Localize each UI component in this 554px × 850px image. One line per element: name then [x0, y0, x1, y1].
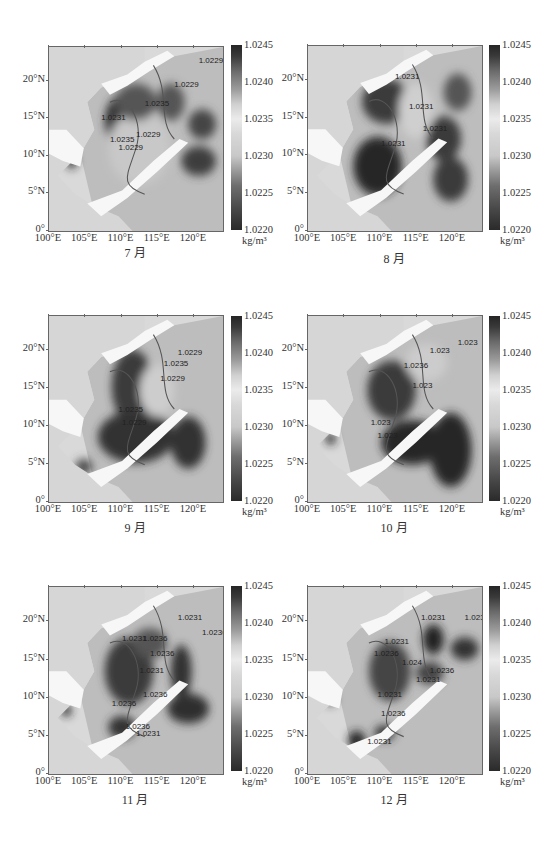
contour-label: 1.0229 — [174, 80, 198, 89]
y-tick-label: 5°N — [5, 186, 45, 197]
month-caption: 10 月 — [364, 522, 424, 534]
y-tick-label: 20°N — [264, 343, 304, 354]
colorbar-tick-label: 1.0245 — [244, 581, 273, 592]
y-tick-mark — [305, 620, 308, 621]
x-tick-mark — [416, 44, 417, 47]
contour-label: 1.0236 — [143, 690, 167, 699]
y-tick-mark — [305, 192, 308, 193]
colorbar-tick-label: 1.0230 — [502, 422, 531, 433]
y-tick-mark — [46, 387, 49, 388]
x-tick-label: 110°E — [360, 504, 400, 515]
contour-label: 1.0229 — [136, 130, 160, 139]
x-tick-mark — [157, 45, 158, 48]
y-tick-mark — [305, 349, 308, 350]
colorbar-tick-label: 1.0235 — [502, 655, 531, 666]
colorbar — [489, 45, 500, 230]
colorbar-unit: kg/m³ — [500, 236, 525, 247]
x-tick-mark — [84, 314, 85, 317]
x-tick-label: 100°E — [28, 504, 68, 515]
x-tick-mark — [307, 314, 308, 317]
y-tick-mark — [46, 773, 49, 774]
contour-label: 1.0231 — [139, 666, 163, 675]
y-tick-mark — [305, 230, 308, 231]
y-tick-label: 5°N — [264, 457, 304, 468]
x-tick-label: 120°E — [432, 233, 472, 244]
colorbar-unit: kg/m³ — [500, 507, 525, 518]
y-tick-mark — [46, 501, 49, 502]
x-tick-mark — [452, 314, 453, 317]
y-tick-label: 20°N — [5, 343, 45, 354]
y-tick-label: 5°N — [5, 729, 45, 740]
contour-label: 1.0235 — [164, 359, 188, 368]
x-tick-label: 115°E — [137, 504, 177, 515]
y-tick-label: 10°N — [5, 149, 45, 160]
y-tick-mark — [305, 387, 308, 388]
x-tick-label: 110°E — [101, 504, 141, 515]
x-tick-mark — [84, 585, 85, 588]
density-field — [308, 316, 482, 502]
y-tick-mark — [46, 155, 49, 156]
x-tick-mark — [157, 585, 158, 588]
y-tick-label: 10°N — [264, 691, 304, 702]
x-tick-mark — [452, 585, 453, 588]
colorbar-unit: kg/m³ — [242, 236, 267, 247]
x-tick-label: 105°E — [323, 233, 363, 244]
colorbar-tick-label: 1.0220 — [502, 496, 531, 507]
y-tick-mark — [46, 425, 49, 426]
map-plot-area: 1.02311.02361.02311.02361.02361.02311.02… — [48, 586, 224, 775]
x-tick-label: 115°E — [396, 776, 436, 787]
colorbar-unit: kg/m³ — [242, 777, 267, 788]
x-tick-mark — [307, 44, 308, 47]
x-tick-mark — [48, 45, 49, 48]
colorbar — [231, 316, 242, 501]
x-tick-label: 110°E — [360, 233, 400, 244]
y-tick-mark — [46, 463, 49, 464]
contour-label: 1.0231 — [136, 729, 160, 738]
y-tick-mark — [46, 192, 49, 193]
x-tick-mark — [121, 314, 122, 317]
y-tick-mark — [46, 80, 49, 81]
x-tick-mark — [380, 585, 381, 588]
y-tick-mark — [305, 463, 308, 464]
x-tick-label: 110°E — [360, 776, 400, 787]
colorbar-tick-label: 1.0240 — [502, 77, 531, 88]
month-caption: 11 月 — [105, 794, 165, 806]
colorbar-tick-label: 1.0225 — [502, 188, 531, 199]
y-tick-mark — [46, 349, 49, 350]
x-tick-mark — [307, 585, 308, 588]
colorbar-tick-label: 1.0245 — [244, 40, 273, 51]
colorbar-tick-label: 1.0245 — [502, 40, 531, 51]
y-tick-label: 5°N — [264, 186, 304, 197]
x-tick-label: 115°E — [137, 233, 177, 244]
x-tick-label: 110°E — [101, 776, 141, 787]
colorbar-tick-label: 1.0230 — [502, 692, 531, 703]
y-tick-mark — [46, 230, 49, 231]
colorbar-tick-label: 1.0225 — [502, 459, 531, 470]
y-tick-mark — [46, 735, 49, 736]
map-plot-area: 1.0231.0231.02361.0231.0231.023 — [307, 315, 483, 503]
colorbar-unit: kg/m³ — [242, 507, 267, 518]
x-tick-mark — [121, 45, 122, 48]
colorbar-tick-label: 1.0220 — [502, 766, 531, 777]
contour-label: 1.0231 — [423, 124, 447, 133]
contour-label: 1.0236 — [374, 649, 398, 658]
density-field — [308, 587, 482, 774]
colorbar-tick-label: 1.0245 — [502, 581, 531, 592]
y-tick-mark — [46, 117, 49, 118]
y-tick-label: 15°N — [264, 111, 304, 122]
contour-label: 1.0236 — [202, 628, 224, 637]
x-tick-label: 120°E — [173, 776, 213, 787]
x-tick-label: 115°E — [137, 776, 177, 787]
x-tick-label: 110°E — [101, 233, 141, 244]
y-tick-label: 10°N — [264, 419, 304, 430]
contour-label: 1.0231 — [381, 139, 405, 148]
x-tick-label: 105°E — [64, 776, 104, 787]
contour-label: 1.0231 — [101, 113, 125, 122]
x-tick-label: 120°E — [173, 233, 213, 244]
colorbar-tick-label: 1.0230 — [502, 151, 531, 162]
x-tick-label: 120°E — [432, 776, 472, 787]
x-tick-mark — [452, 44, 453, 47]
colorbar — [231, 45, 242, 230]
x-tick-label: 100°E — [287, 776, 327, 787]
x-tick-label: 120°E — [432, 504, 472, 515]
